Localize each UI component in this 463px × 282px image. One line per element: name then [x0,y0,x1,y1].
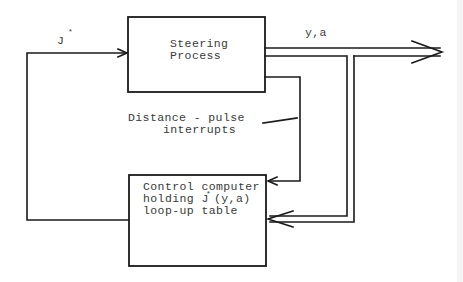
output-arrowhead-icon [412,41,442,63]
interrupt-connector [263,77,300,185]
feedback-label-superscript: * [68,27,73,36]
state-return-double-arrow [268,56,354,227]
control-computer-block: Control computer holding J * (y,a) loop-… [129,175,266,266]
output-label: y,a [305,26,327,39]
interrupt-label-pointer [263,118,297,123]
feedback-j-star-connector [27,49,128,220]
computer-block-line2-sup: * [206,189,211,198]
interrupt-label-line2: interrupts [163,123,236,136]
computer-block-line3: loop-up table [143,204,238,217]
steering-block-line2: Process [170,49,221,62]
control-loop-diagram: J * Steering Process y,a Distance - puls… [0,0,463,282]
return-arrowhead-icon [268,211,293,227]
page-edge [457,0,463,282]
steering-process-block: Steering Process [128,17,265,92]
feedback-label: J [57,34,64,47]
